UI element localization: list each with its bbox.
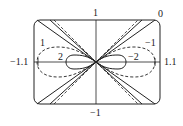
curve-label-2: 2 [58,52,63,62]
axis-label-bottom: −1 [90,108,101,118]
curve-label-1: 1 [40,38,45,48]
axis-label-left: −1.1 [10,57,28,67]
axis-label-top: 1 [93,8,98,18]
curve-label-0: 0 [158,9,163,19]
curve-label-neg1: −1 [145,38,156,48]
curve-label-neg2: −2 [128,52,139,62]
axis-label-right: 1.1 [164,57,177,67]
